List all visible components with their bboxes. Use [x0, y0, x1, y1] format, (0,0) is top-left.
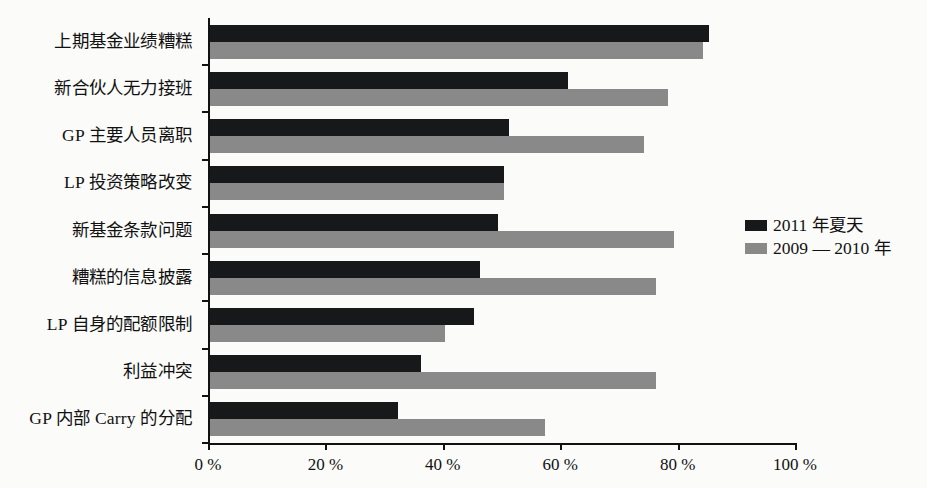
bar	[210, 136, 644, 153]
plot-area: 0 %20 %40 %60 %80 %100 %	[208, 18, 795, 443]
category-label: 新基金条款问题	[0, 222, 192, 240]
chart-legend: 2011 年夏天2009 — 2010 年	[745, 214, 925, 260]
bar	[210, 42, 703, 59]
x-axis-line	[208, 443, 797, 445]
y-axis-tick	[202, 348, 209, 350]
y-axis-tick	[202, 395, 209, 397]
category-label: LP 自身的配额限制	[0, 316, 192, 334]
legend-swatch	[745, 243, 767, 254]
bar	[210, 166, 504, 183]
bar	[210, 72, 568, 89]
x-axis-tick-label: 20 %	[308, 455, 343, 475]
bar	[210, 308, 474, 325]
bar	[210, 355, 421, 372]
category-label: 上期基金业绩糟糕	[0, 33, 192, 51]
legend-swatch	[745, 220, 767, 231]
x-axis-tick-label: 40 %	[425, 455, 460, 475]
y-axis-tick	[202, 159, 209, 161]
bar	[210, 402, 398, 419]
category-label: 利益冲突	[0, 363, 192, 381]
category-label: 新合伙人无力接班	[0, 80, 192, 98]
x-axis-tick	[795, 443, 797, 450]
bar	[210, 231, 674, 248]
bar	[210, 183, 504, 200]
legend-label: 2009 — 2010 年	[773, 240, 891, 258]
category-label: GP 主要人员离职	[0, 127, 192, 145]
x-axis-tick	[208, 443, 210, 450]
y-axis-tick	[202, 206, 209, 208]
x-axis-tick	[560, 443, 562, 450]
category-label: LP 投资策略改变	[0, 174, 192, 192]
bar	[210, 325, 445, 342]
bar	[210, 119, 509, 136]
legend-label: 2011 年夏天	[773, 217, 863, 235]
x-axis-tick-label: 100 %	[773, 455, 817, 475]
bar	[210, 214, 498, 231]
x-axis-tick	[325, 443, 327, 450]
y-axis-tick	[202, 300, 209, 302]
category-label: 糟糕的信息披露	[0, 269, 192, 287]
legend-item: 2011 年夏天	[745, 214, 925, 237]
y-axis-tick	[202, 442, 209, 444]
x-axis-tick	[678, 443, 680, 450]
bar	[210, 25, 709, 42]
bar	[210, 261, 480, 278]
legend-item: 2009 — 2010 年	[745, 237, 925, 260]
category-axis: 上期基金业绩糟糕新合伙人无力接班GP 主要人员离职LP 投资策略改变新基金条款问…	[0, 18, 200, 443]
bar	[210, 278, 656, 295]
bar	[210, 372, 656, 389]
bar	[210, 419, 545, 436]
bar-chart: 上期基金业绩糟糕新合伙人无力接班GP 主要人员离职LP 投资策略改变新基金条款问…	[0, 0, 927, 488]
y-axis-tick	[202, 253, 209, 255]
y-axis-tick	[202, 64, 209, 66]
bar	[210, 89, 668, 106]
y-axis-tick	[202, 111, 209, 113]
category-label: GP 内部 Carry 的分配	[0, 410, 192, 428]
x-axis-tick-label: 60 %	[542, 455, 577, 475]
x-axis-tick-label: 0 %	[195, 455, 222, 475]
x-axis-tick-label: 80 %	[660, 455, 695, 475]
x-axis-tick	[443, 443, 445, 450]
